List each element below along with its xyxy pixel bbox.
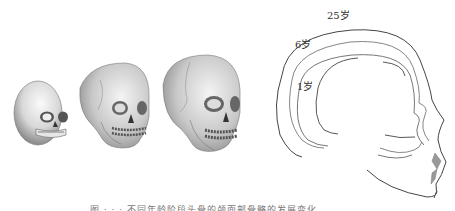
profile-1-year-line bbox=[300, 55, 424, 145]
figure: 25岁 6岁 1岁 图 · · · 不同年龄阶段头骨的颅面部骨骼的发展变化 bbox=[0, 0, 455, 211]
upper-lip-shape bbox=[432, 153, 441, 169]
infant-skull-icon bbox=[14, 81, 68, 145]
age-label-25: 25岁 bbox=[327, 11, 350, 21]
figure-caption: 图 · · · 不同年龄阶段头骨的颅面部骨骼的发展变化 bbox=[90, 203, 360, 211]
lower-lip-shape bbox=[431, 169, 437, 184]
child-skull-icon bbox=[80, 63, 149, 148]
skull-profile-diagram bbox=[276, 30, 446, 198]
adult-skull-icon bbox=[163, 55, 240, 151]
skull-illustrations bbox=[0, 0, 455, 211]
age-label-1: 1岁 bbox=[297, 82, 313, 92]
age-label-6: 6岁 bbox=[295, 40, 311, 50]
